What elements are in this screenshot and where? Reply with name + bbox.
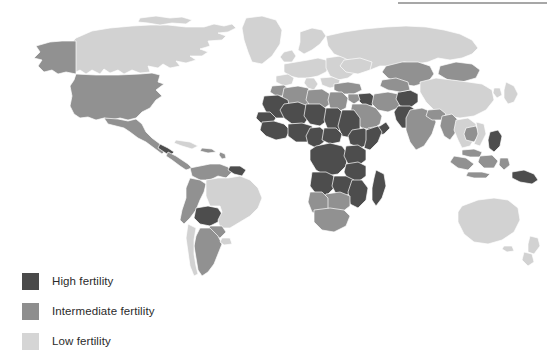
region-syria-levant	[348, 94, 360, 104]
region-british-isles	[280, 50, 296, 62]
region-iberia	[276, 74, 294, 86]
region-japan	[504, 82, 518, 104]
region-greenland	[242, 16, 282, 64]
region-cuba	[174, 140, 198, 149]
legend-item-intermediate: Intermediate fertility	[22, 296, 232, 326]
legend-item-high: High fertility	[22, 266, 232, 296]
legend-label-intermediate: Intermediate fertility	[52, 305, 155, 317]
legend-swatch-low-icon	[22, 333, 39, 350]
region-bolivia	[194, 206, 222, 226]
region-new-zealand	[528, 236, 540, 254]
region-canada	[64, 24, 236, 74]
region-west-africa-coast	[260, 121, 290, 140]
legend-label-high: High fertility	[52, 275, 113, 287]
region-papua-new-guinea	[512, 170, 538, 184]
region-indonesia-sumatra	[450, 156, 474, 170]
legend-swatch-high-icon	[22, 273, 39, 290]
world-fertility-map-figure: High fertility Intermediate fertility Lo…	[0, 0, 547, 355]
legend-label-low: Low fertility	[52, 335, 111, 347]
region-mexico	[104, 118, 166, 154]
region-indonesia-borneo	[478, 155, 498, 168]
region-niger	[304, 104, 328, 126]
region-malaysia	[462, 149, 482, 157]
region-philippines	[488, 130, 502, 152]
region-somalia	[364, 126, 382, 150]
legend-swatch-intermediate-icon	[22, 303, 39, 320]
region-south-africa	[314, 208, 350, 232]
region-indonesia-java	[466, 172, 490, 178]
region-lesser-antilles	[219, 152, 226, 159]
region-indonesia-sulawesi	[499, 158, 510, 170]
region-guyanas	[228, 166, 246, 176]
region-afghanistan	[396, 90, 418, 108]
region-hispaniola	[200, 148, 216, 153]
region-australia	[458, 198, 520, 244]
region-madagascar	[372, 170, 386, 206]
region-colombia-venezuela	[190, 164, 232, 180]
region-korea	[493, 88, 502, 98]
region-new-zealand-south	[522, 252, 534, 266]
region-mozambique	[348, 180, 368, 208]
legend-item-low: Low fertility	[22, 326, 232, 355]
region-canada-arctic-islands	[138, 16, 192, 25]
region-drc	[310, 143, 348, 176]
region-central-america	[166, 152, 192, 170]
region-scandinavia	[298, 28, 326, 54]
region-united-states	[70, 73, 164, 120]
region-tasmania	[502, 246, 514, 252]
legend: High fertility Intermediate fertility Lo…	[22, 266, 232, 355]
region-alaska	[34, 41, 76, 74]
